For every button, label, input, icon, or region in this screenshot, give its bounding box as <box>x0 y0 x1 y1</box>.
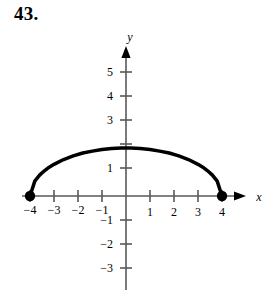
y-tick-labels: 5 4 3 1 −1 −2 −3 <box>100 65 113 275</box>
x-axis <box>22 192 246 201</box>
endpoint-dot-right <box>217 191 227 201</box>
endpoint-dot-left <box>25 191 35 201</box>
svg-text:−2: −2 <box>72 203 85 217</box>
coordinate-plane: x y −4 −3 −2 −1 1 2 3 4 5 4 3 1 −1 −2 <box>0 0 277 296</box>
svg-text:−2: −2 <box>100 237 113 251</box>
svg-text:3: 3 <box>195 205 201 219</box>
y-axis-label: y <box>126 30 133 44</box>
svg-text:−1: −1 <box>100 213 113 227</box>
svg-text:1: 1 <box>107 161 113 175</box>
svg-text:5: 5 <box>107 65 113 79</box>
svg-text:3: 3 <box>107 113 113 127</box>
svg-text:2: 2 <box>171 205 177 219</box>
svg-text:1: 1 <box>147 205 153 219</box>
math-figure: 43. <box>0 0 277 296</box>
svg-text:−3: −3 <box>48 203 61 217</box>
svg-text:4: 4 <box>107 89 113 103</box>
svg-text:−3: −3 <box>100 261 113 275</box>
svg-text:−4: −4 <box>24 203 37 217</box>
x-axis-label: x <box>255 190 262 204</box>
x-tick-labels: −4 −3 −2 −1 1 2 3 4 <box>24 203 225 219</box>
svg-text:4: 4 <box>219 205 225 219</box>
